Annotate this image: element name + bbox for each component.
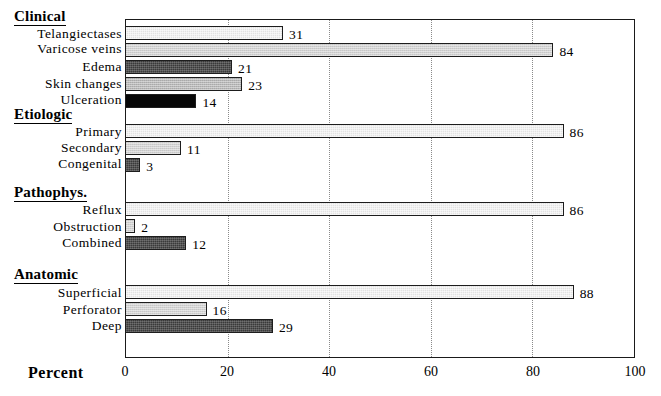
x-tick-20: 20: [207, 364, 247, 380]
gridline-60: [431, 20, 432, 357]
group-header-anatomic: Anatomic: [0, 266, 121, 284]
bar-deep: [125, 319, 273, 333]
bar-primary: [125, 124, 564, 138]
row-label-superficial: Superficial: [0, 286, 122, 300]
row-label-congenital: Congenital: [0, 157, 122, 171]
row-label-deep: Deep: [0, 319, 122, 333]
row-label-perforator: Perforator: [0, 303, 122, 317]
bar-value-congenital: 3: [146, 160, 153, 173]
bar-telangiectases: [125, 26, 283, 40]
row-label-combined: Combined: [0, 236, 122, 250]
group-header-anatomic-text: Anatomic: [14, 267, 78, 284]
group-header-clinical: Clinical: [0, 8, 121, 26]
bar-obstruction: [125, 219, 135, 233]
bar-congenital: [125, 158, 140, 172]
group-header-etiologic: Etiologic: [0, 106, 121, 124]
x-tick-0: 0: [105, 364, 145, 380]
bar-value-ulceration: 14: [202, 96, 216, 109]
group-header-clinical-text: Clinical: [14, 9, 66, 26]
group-header-etiologic-text: Etiologic: [14, 107, 72, 124]
bar-varicose-veins: [125, 43, 553, 57]
row-label-telangiectases: Telangiectases: [0, 27, 122, 41]
bar-chart: 31842123148611386212881629 Clinical Tela…: [0, 0, 661, 396]
bar-skin-changes: [125, 77, 242, 91]
bar-value-varicose-veins: 84: [559, 45, 573, 58]
bar-value-secondary: 11: [187, 143, 201, 156]
group-header-pathophys-text: Pathophys.: [14, 185, 87, 202]
bar-value-deep: 29: [279, 321, 293, 334]
x-tick-80: 80: [513, 364, 553, 380]
x-tick-60: 60: [411, 364, 451, 380]
row-label-reflux: Reflux: [0, 203, 122, 217]
bar-value-skin-changes: 23: [248, 79, 262, 92]
row-label-edema: Edema: [0, 60, 122, 74]
bar-combined: [125, 236, 186, 250]
bar-value-edema: 21: [238, 62, 252, 75]
gridline-40: [329, 20, 330, 357]
row-label-varicose-veins: Varicose veins: [0, 42, 122, 56]
bar-value-primary: 86: [570, 126, 584, 139]
category-label-column: Clinical Telangiectases Varicose veins E…: [0, 0, 125, 396]
bar-secondary: [125, 141, 181, 155]
row-label-ulceration: Ulceration: [0, 93, 122, 107]
bar-edema: [125, 60, 232, 74]
bar-value-superficial: 88: [580, 287, 594, 300]
bar-perforator: [125, 302, 207, 316]
bar-reflux: [125, 202, 564, 216]
x-tick-100: 100: [615, 364, 655, 380]
axis-title-percent: Percent: [28, 364, 84, 382]
group-header-pathophys: Pathophys.: [0, 184, 121, 202]
x-tick-40: 40: [309, 364, 349, 380]
bar-value-telangiectases: 31: [289, 28, 303, 41]
row-label-skin-changes: Skin changes: [0, 77, 122, 91]
bar-value-obstruction: 2: [141, 221, 148, 234]
row-label-primary: Primary: [0, 125, 122, 139]
gridline-80: [532, 20, 533, 357]
row-label-secondary: Secondary: [0, 141, 122, 155]
bar-superficial: [125, 285, 574, 299]
bar-value-combined: 12: [192, 238, 206, 251]
bar-value-perforator: 16: [213, 304, 227, 317]
row-label-obstruction: Obstruction: [0, 220, 122, 234]
bar-ulceration: [125, 94, 196, 108]
bar-value-reflux: 86: [570, 204, 584, 217]
